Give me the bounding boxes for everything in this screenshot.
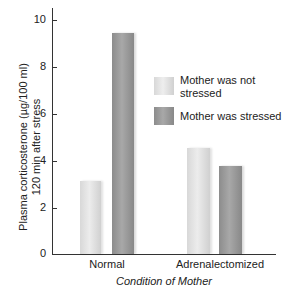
legend-label-line: Mother was not [180, 74, 255, 87]
y-axis [52, 8, 53, 254]
y-tick [52, 161, 57, 162]
y-tick-label: 6 [26, 107, 46, 119]
legend-swatch-not-stressed [154, 77, 174, 95]
y-tick-label: 8 [26, 60, 46, 72]
y-tick [52, 67, 57, 68]
bar-adrenalectomized-stressed [219, 166, 242, 254]
x-axis [52, 254, 276, 255]
legend-swatch-stressed [154, 107, 174, 125]
bar-adrenalectomized-not-stressed [187, 148, 210, 254]
y-tick [52, 114, 57, 115]
x-category-label: Normal [72, 258, 142, 270]
y-tick-label: 10 [26, 13, 46, 25]
y-tick [52, 20, 57, 21]
y-tick-label: 2 [26, 201, 46, 213]
y-axis-label-line-1: Plasma corticosterone (µg/100 ml) [17, 52, 30, 242]
bar-normal-stressed [112, 33, 134, 254]
bar-normal-not-stressed [80, 181, 101, 254]
y-tick-label: 0 [26, 247, 46, 259]
x-axis-label: Condition of Mother [52, 275, 276, 287]
legend-label-stressed: Mother was stressed [180, 110, 281, 123]
legend-label-line: stressed [180, 87, 255, 100]
legend-label-not-stressed: Mother was not stressed [180, 74, 255, 100]
y-axis-label-line-2: 120 min after stress [30, 52, 43, 242]
y-tick [52, 208, 57, 209]
y-axis-label: Plasma corticosterone (µg/100 ml) 120 mi… [17, 52, 43, 242]
y-tick-label: 4 [26, 154, 46, 166]
x-category-label: Adrenalectomized [170, 258, 270, 270]
